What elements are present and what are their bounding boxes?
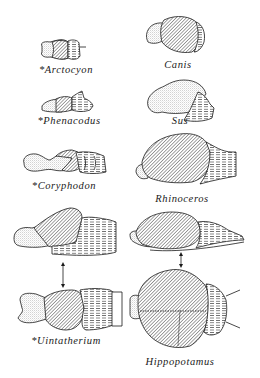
brain-uintatherium-lateral [14,208,116,255]
label-arctocyon: *Arctocyon [39,64,93,75]
label-rhinoceros: Rhinoceros [155,193,208,204]
brain-phenacodus [42,91,93,112]
brain-arctocyon [41,40,86,60]
label-coryphodon: *Coryphodon [32,180,96,191]
brain-hippopotamus-lateral [130,212,244,251]
label-phenacodus: *Phenacodus [37,115,100,126]
brain-hippopotamus-dorsal [130,269,240,347]
label-canis: Canis [164,59,192,70]
brain-rhinoceros [136,134,236,184]
brain-uintatherium-dorsal [18,289,122,331]
brain-coryphodon [24,150,106,174]
label-sus: Sus [172,115,188,126]
label-hippopotamus: Hippopotamus [145,356,214,367]
label-uintatherium: *Uintatherium [31,335,101,346]
brain-canis [147,17,205,53]
